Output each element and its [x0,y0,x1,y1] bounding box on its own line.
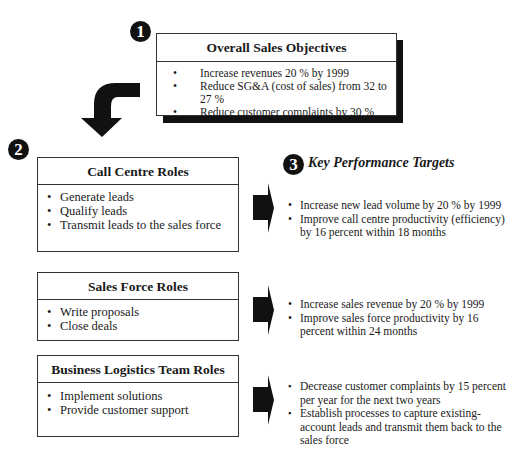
sales-force-roles-box: Sales Force Roles Write proposals Close … [37,272,239,341]
target-item: Establish processes to capture existing-… [286,407,511,448]
call-centre-targets: Increase new lead volume by 20 % by 1999… [286,199,511,240]
step-3-badge: 3 [283,154,304,175]
objectives-list: Increase revenues 20 % by 1999 Reduce SG… [157,62,396,119]
step-1-badge: 1 [130,21,151,42]
role-item: Transmit leads to the sales force [60,218,238,232]
step-2-badge: 2 [8,139,29,160]
role-item: Qualify leads [60,204,238,218]
role-item: Generate leads [60,190,238,204]
objectives-box: Overall Sales Objectives Increase revenu… [156,33,397,116]
curved-down-arrow-icon [78,80,148,140]
logistics-targets: Decrease customer complaints by 15 perce… [286,380,511,448]
right-block-arrow-icon [252,284,276,336]
call-centre-roles-box: Call Centre Roles Generate leads Qualify… [37,157,239,252]
kpt-heading: Key Performance Targets [308,155,454,171]
target-item: Decrease customer complaints by 15 perce… [286,380,511,407]
call-centre-roles-title: Call Centre Roles [38,158,238,185]
target-item: Improve call centre productivity (effici… [286,213,511,240]
objective-item: Increase revenues 20 % by 1999 [186,67,396,80]
objective-item: Reduce customer complaints by 30 % [186,106,396,119]
logistics-roles-box: Business Logistics Team Roles Implement … [37,355,239,437]
sales-force-roles-list: Write proposals Close deals [38,300,238,333]
logistics-roles-title: Business Logistics Team Roles [38,356,238,383]
logistics-roles-list: Implement solutions Provide customer sup… [38,383,238,417]
objectives-title: Overall Sales Objectives [157,34,396,62]
role-item: Provide customer support [60,403,238,417]
role-item: Implement solutions [60,389,238,403]
target-item: Increase new lead volume by 20 % by 1999 [286,199,511,213]
right-block-arrow-icon [252,182,276,234]
call-centre-roles-list: Generate leads Qualify leads Transmit le… [38,185,238,232]
role-item: Close deals [60,319,238,333]
objective-item: Reduce SG&A (cost of sales) from 32 to 2… [186,80,396,106]
right-block-arrow-icon [252,374,276,426]
sales-force-targets: Increase sales revenue by 20 % by 1999 I… [286,298,511,339]
role-item: Write proposals [60,305,238,319]
sales-force-roles-title: Sales Force Roles [38,273,238,300]
target-item: Improve sales force productivity by 16 p… [286,312,511,339]
target-item: Increase sales revenue by 20 % by 1999 [286,298,511,312]
